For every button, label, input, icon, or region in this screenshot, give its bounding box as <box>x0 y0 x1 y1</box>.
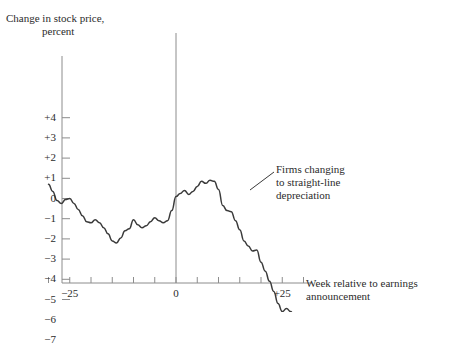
y-tick-label: −2 <box>32 232 56 244</box>
x-axis-title-line2: announcement <box>306 290 370 303</box>
annotation-leader-line <box>250 172 274 190</box>
y-axis-title-line2: percent <box>42 25 74 38</box>
y-axis-title-line1: Change in stock price, <box>6 12 104 25</box>
series-annotation-line1: Firms changing <box>276 163 345 176</box>
x-tick-label: 0 <box>156 287 196 299</box>
y-tick-label: +3 <box>32 131 56 143</box>
series-annotation-line2: to straight-line <box>276 176 340 189</box>
y-tick-label: 0 <box>32 192 56 204</box>
y-tick-label: −4 <box>32 272 56 284</box>
y-tick-label: +2 <box>32 151 56 163</box>
series-annotation-line3: depreciation <box>276 189 330 202</box>
y-tick-label: +1 <box>32 171 56 183</box>
y-tick-label: −7 <box>32 333 56 345</box>
y-tick-label: −6 <box>32 313 56 325</box>
x-tick-label: +25 <box>262 287 302 299</box>
y-tick-label: −1 <box>32 212 56 224</box>
y-tick-label: −3 <box>32 252 56 264</box>
x-axis-title-line1: Week relative to earnings <box>306 277 418 290</box>
y-tick-label: +4 <box>32 111 56 123</box>
x-tick-label: −25 <box>50 287 90 299</box>
